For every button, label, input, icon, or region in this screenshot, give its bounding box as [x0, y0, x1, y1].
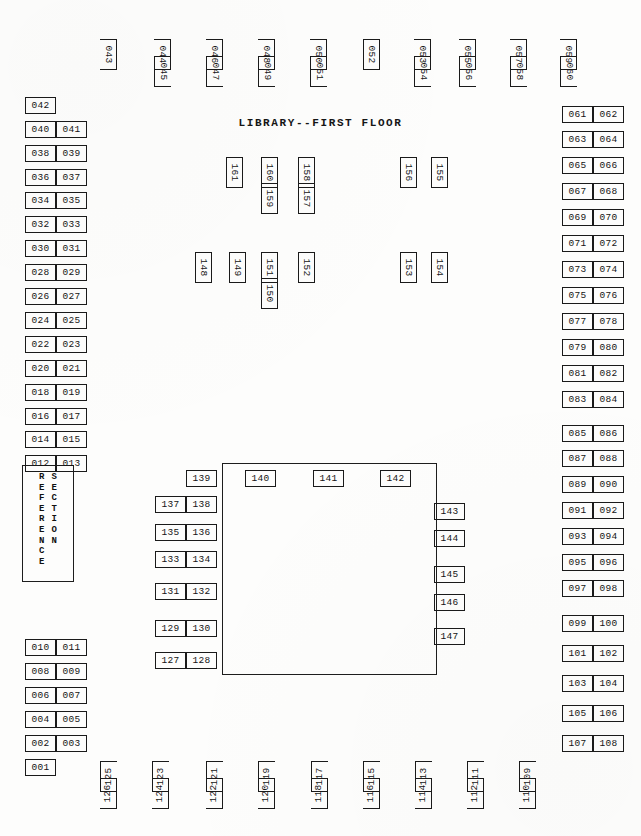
stack-cell-028[interactable]: 028	[25, 264, 56, 281]
stack-cell-001[interactable]: 001	[25, 759, 56, 776]
stack-cell-075[interactable]: 075	[562, 287, 593, 304]
stack-cell-014[interactable]: 014	[25, 431, 56, 448]
stack-cell-120[interactable]: 120	[258, 778, 275, 809]
stack-cell-061[interactable]: 061	[562, 106, 593, 123]
stack-cell-104[interactable]: 104	[593, 675, 624, 692]
stack-cell-035[interactable]: 035	[56, 192, 87, 209]
stack-cell-018[interactable]: 018	[25, 384, 56, 401]
stack-cell-084[interactable]: 084	[593, 391, 624, 408]
stack-cell-122[interactable]: 122	[206, 778, 223, 809]
stack-cell-096[interactable]: 096	[593, 554, 624, 571]
stack-cell-101[interactable]: 101	[562, 645, 593, 662]
stack-cell-047[interactable]: 047	[206, 56, 223, 87]
stack-cell-088[interactable]: 088	[593, 450, 624, 467]
stack-cell-051[interactable]: 051	[310, 56, 327, 87]
stack-cell-033[interactable]: 033	[56, 216, 87, 233]
stack-cell-052[interactable]: 052	[363, 39, 380, 70]
stack-cell-094[interactable]: 094	[593, 528, 624, 545]
stack-cell-089[interactable]: 089	[562, 476, 593, 493]
stack-cell-023[interactable]: 023	[56, 336, 87, 353]
stack-cell-039[interactable]: 039	[56, 145, 87, 162]
stack-cell-108[interactable]: 108	[593, 735, 624, 752]
stack-cell-011[interactable]: 011	[56, 639, 87, 656]
stack-cell-041[interactable]: 041	[56, 121, 87, 138]
stack-cell-017[interactable]: 017	[56, 408, 87, 425]
stack-cell-021[interactable]: 021	[56, 360, 87, 377]
stack-cell-078[interactable]: 078	[593, 313, 624, 330]
reference-section-box[interactable]: REFERENCE SECTION	[22, 465, 74, 582]
stack-cell-156[interactable]: 156	[400, 157, 417, 188]
stack-cell-085[interactable]: 085	[562, 425, 593, 442]
stack-cell-153[interactable]: 153	[400, 252, 417, 283]
stack-cell-134[interactable]: 134	[186, 551, 217, 568]
stack-cell-147[interactable]: 147	[434, 628, 465, 645]
stack-cell-124[interactable]: 124	[152, 778, 169, 809]
stack-cell-005[interactable]: 005	[56, 711, 87, 728]
stack-cell-139[interactable]: 139	[186, 470, 217, 487]
stack-cell-043[interactable]: 043	[100, 39, 117, 70]
stack-cell-027[interactable]: 027	[56, 288, 87, 305]
stack-cell-036[interactable]: 036	[25, 169, 56, 186]
stack-cell-034[interactable]: 034	[25, 192, 56, 209]
stack-cell-146[interactable]: 146	[434, 594, 465, 611]
stack-cell-130[interactable]: 130	[186, 620, 217, 637]
stack-cell-024[interactable]: 024	[25, 312, 56, 329]
stack-cell-098[interactable]: 098	[593, 580, 624, 597]
stack-cell-020[interactable]: 020	[25, 360, 56, 377]
stack-cell-141[interactable]: 141	[313, 470, 344, 487]
stack-cell-009[interactable]: 009	[56, 663, 87, 680]
stack-cell-128[interactable]: 128	[186, 652, 217, 669]
stack-cell-112[interactable]: 112	[467, 778, 484, 809]
stack-cell-106[interactable]: 106	[593, 705, 624, 722]
stack-cell-081[interactable]: 081	[562, 365, 593, 382]
stack-cell-161[interactable]: 161	[226, 157, 243, 188]
stack-cell-042[interactable]: 042	[25, 97, 56, 114]
stack-cell-062[interactable]: 062	[593, 106, 624, 123]
stack-cell-002[interactable]: 002	[25, 735, 56, 752]
stack-cell-159[interactable]: 159	[261, 183, 278, 214]
stack-cell-155[interactable]: 155	[431, 157, 448, 188]
stack-cell-103[interactable]: 103	[562, 675, 593, 692]
stack-cell-038[interactable]: 038	[25, 145, 56, 162]
stack-cell-152[interactable]: 152	[298, 252, 315, 283]
stack-cell-031[interactable]: 031	[56, 240, 87, 257]
stack-cell-040[interactable]: 040	[25, 121, 56, 138]
stack-cell-142[interactable]: 142	[380, 470, 411, 487]
stack-cell-016[interactable]: 016	[25, 408, 56, 425]
stack-cell-077[interactable]: 077	[562, 313, 593, 330]
stack-cell-149[interactable]: 149	[229, 252, 246, 283]
stack-cell-092[interactable]: 092	[593, 502, 624, 519]
stack-cell-068[interactable]: 068	[593, 183, 624, 200]
stack-cell-012[interactable]: 012	[25, 455, 56, 472]
stack-cell-019[interactable]: 019	[56, 384, 87, 401]
stack-cell-060[interactable]: 060	[560, 56, 577, 87]
stack-cell-083[interactable]: 083	[562, 391, 593, 408]
stack-cell-073[interactable]: 073	[562, 261, 593, 278]
stack-cell-133[interactable]: 133	[155, 551, 186, 568]
stack-cell-118[interactable]: 118	[311, 778, 328, 809]
stack-cell-010[interactable]: 010	[25, 639, 56, 656]
stack-cell-076[interactable]: 076	[593, 287, 624, 304]
stack-cell-069[interactable]: 069	[562, 209, 593, 226]
stack-cell-093[interactable]: 093	[562, 528, 593, 545]
stack-cell-030[interactable]: 030	[25, 240, 56, 257]
stack-cell-004[interactable]: 004	[25, 711, 56, 728]
stack-cell-064[interactable]: 064	[593, 131, 624, 148]
stack-cell-063[interactable]: 063	[562, 131, 593, 148]
stack-cell-054[interactable]: 054	[414, 56, 431, 87]
stack-cell-029[interactable]: 029	[56, 264, 87, 281]
stack-cell-148[interactable]: 148	[195, 252, 212, 283]
stack-cell-091[interactable]: 091	[562, 502, 593, 519]
stack-cell-144[interactable]: 144	[434, 530, 465, 547]
stack-cell-095[interactable]: 095	[562, 554, 593, 571]
stack-cell-079[interactable]: 079	[562, 339, 593, 356]
stack-cell-080[interactable]: 080	[593, 339, 624, 356]
stack-cell-154[interactable]: 154	[431, 252, 448, 283]
stack-cell-157[interactable]: 157	[298, 183, 315, 214]
stack-cell-126[interactable]: 126	[100, 778, 117, 809]
stack-cell-049[interactable]: 049	[258, 56, 275, 87]
stack-cell-097[interactable]: 097	[562, 580, 593, 597]
stack-cell-102[interactable]: 102	[593, 645, 624, 662]
stack-cell-138[interactable]: 138	[186, 496, 217, 513]
stack-cell-137[interactable]: 137	[155, 496, 186, 513]
